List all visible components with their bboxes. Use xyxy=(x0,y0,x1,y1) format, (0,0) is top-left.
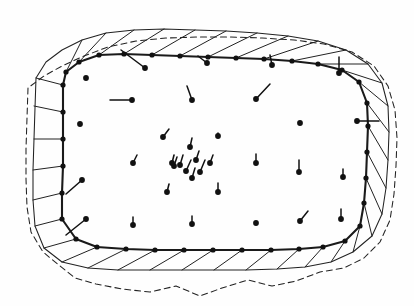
vector-head-dot xyxy=(204,60,210,66)
rib-segment xyxy=(366,178,382,214)
mesh-node xyxy=(210,247,215,252)
vector-head-dot xyxy=(253,96,259,102)
rib-segment xyxy=(66,40,82,72)
mesh-node xyxy=(239,247,244,252)
mesh-node xyxy=(363,175,368,180)
displacement-vector xyxy=(130,217,136,228)
vector-head-dot xyxy=(207,160,213,166)
vector-head-dot xyxy=(160,134,166,140)
displacement-vector xyxy=(340,169,346,180)
vector-head-dot xyxy=(297,218,303,224)
displacement-vector xyxy=(187,138,193,150)
rib-segment xyxy=(44,239,76,248)
displacement-vector xyxy=(177,155,183,168)
vector-shaft xyxy=(256,84,270,99)
vector-head-dot xyxy=(253,160,259,166)
mesh-node xyxy=(63,69,68,74)
displacement-vector xyxy=(66,177,85,194)
displacement-vector xyxy=(253,154,259,166)
mesh-boundary xyxy=(62,54,368,250)
displacement-vector xyxy=(354,118,379,124)
displacement-vector xyxy=(297,120,303,126)
vector-head-dot xyxy=(338,216,344,222)
mesh-node xyxy=(289,58,294,63)
mesh-node xyxy=(94,244,99,249)
displacement-vector xyxy=(183,160,191,174)
vector-head-dot xyxy=(169,160,175,166)
displacement-vector xyxy=(253,84,270,102)
rib-segment xyxy=(214,250,242,270)
vector-head-dot xyxy=(197,169,203,175)
vector-head-dot xyxy=(183,168,189,174)
mesh-node xyxy=(356,79,361,84)
vector-head-dot xyxy=(77,121,83,127)
mesh-node xyxy=(315,61,320,66)
vector-head-dot xyxy=(130,160,136,166)
displacement-vector xyxy=(189,216,195,227)
displacement-vector xyxy=(197,160,205,175)
displacement-vector xyxy=(77,121,83,127)
rib-segment xyxy=(367,103,389,132)
rib-segment xyxy=(88,249,126,268)
mesh-node xyxy=(177,53,182,58)
vector-head-dot xyxy=(83,75,89,81)
mesh-node-group xyxy=(59,51,370,252)
vector-shaft xyxy=(66,219,86,235)
mesh-node xyxy=(364,149,369,154)
vector-head-dot xyxy=(189,221,195,227)
mesh-node xyxy=(364,100,369,105)
rib-segment xyxy=(118,250,155,270)
mesh-node xyxy=(152,247,157,252)
mesh-node xyxy=(320,244,325,249)
rib-segment xyxy=(292,50,346,61)
mesh-node xyxy=(357,223,362,228)
displacement-vector xyxy=(215,183,221,195)
vector-head-dot xyxy=(189,97,195,103)
mesh-node xyxy=(60,82,65,87)
vector-head-dot xyxy=(253,220,259,226)
figure-canvas xyxy=(0,0,414,306)
vector-shaft xyxy=(121,50,145,68)
displacement-vector xyxy=(338,209,344,222)
vector-head-dot xyxy=(296,169,302,175)
mesh-node xyxy=(233,55,238,60)
displacement-vector xyxy=(187,86,195,103)
vector-head-dot xyxy=(269,62,275,68)
rib-segment xyxy=(368,126,388,160)
displacement-vector xyxy=(269,55,275,68)
rib-segment xyxy=(367,152,386,188)
displacement-vector xyxy=(169,155,175,166)
mesh-node xyxy=(296,246,301,251)
displacement-vector xyxy=(66,216,89,235)
mesh-vector-figure xyxy=(0,0,414,306)
vector-head-dot xyxy=(142,65,148,71)
rib-segment xyxy=(34,106,63,112)
vector-head-dot xyxy=(193,157,199,163)
displacement-vector xyxy=(189,168,195,181)
vector-head-dot xyxy=(83,216,89,222)
vector-head-dot xyxy=(215,189,221,195)
mesh-node xyxy=(59,216,64,221)
rib-segment xyxy=(264,41,318,59)
displacement-vector xyxy=(207,155,213,166)
mesh-node xyxy=(60,163,65,168)
rib-segment xyxy=(35,219,62,226)
displacement-vector-group xyxy=(66,50,379,235)
vector-head-dot xyxy=(177,162,183,168)
displacement-vector xyxy=(297,211,308,224)
vector-head-dot xyxy=(187,144,193,150)
displacement-vector xyxy=(193,151,199,163)
mesh-node xyxy=(59,190,64,195)
mesh-node xyxy=(96,52,101,57)
vector-head-dot xyxy=(354,118,360,124)
vector-head-dot xyxy=(340,174,346,180)
displacement-vector xyxy=(160,129,169,140)
vector-shaft xyxy=(66,180,82,194)
rib-segment xyxy=(33,193,62,200)
vector-head-dot xyxy=(130,222,136,228)
rib-segment xyxy=(182,250,213,270)
rib-segments-group xyxy=(33,29,389,270)
displacement-vector xyxy=(164,184,170,195)
vector-head-dot xyxy=(297,120,303,126)
mesh-node xyxy=(361,200,366,205)
